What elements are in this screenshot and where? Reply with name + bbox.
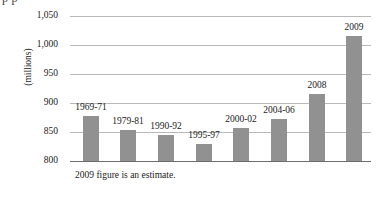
y-axis-tick-label: 1,050 xyxy=(14,11,58,21)
clipped-header-fragment: p p xyxy=(2,0,18,6)
bar[interactable] xyxy=(346,36,362,161)
y-axis-tick-label: 850 xyxy=(14,127,58,137)
plot-area: 1,0501,0009509008508001969-711979-811990… xyxy=(70,16,371,161)
y-axis-tick-label: 800 xyxy=(14,156,58,166)
gridline xyxy=(70,161,371,162)
y-axis-tick-label: 1,000 xyxy=(14,40,58,50)
gridline xyxy=(70,103,371,104)
bar-value-label: 2000-02 xyxy=(225,115,257,125)
bar-value-label: 2009 xyxy=(345,23,364,33)
bar[interactable] xyxy=(158,135,174,161)
gridline xyxy=(70,132,371,133)
bar-value-label: 1979-81 xyxy=(112,117,144,127)
bar-value-label: 1995-97 xyxy=(188,131,220,141)
bar-value-label: 1969-71 xyxy=(75,103,107,113)
bar-value-label: 2008 xyxy=(308,81,327,91)
bar[interactable] xyxy=(271,119,287,161)
y-axis-tick-label: 900 xyxy=(14,98,58,108)
y-axis-tick-label: 950 xyxy=(14,69,58,79)
gridline xyxy=(70,74,371,75)
gridline xyxy=(70,16,371,17)
chart-footnote: 2009 figure is an estimate. xyxy=(75,170,176,180)
bar[interactable] xyxy=(233,128,249,161)
bar[interactable] xyxy=(196,144,212,161)
bar[interactable] xyxy=(309,94,325,161)
bar[interactable] xyxy=(83,116,99,161)
bar-value-label: 1990-92 xyxy=(150,122,182,132)
bar-chart: p p (millions) 1,0501,000950900850800196… xyxy=(0,0,379,206)
gridline xyxy=(70,45,371,46)
bar[interactable] xyxy=(120,130,136,161)
bar-value-label: 2004-06 xyxy=(263,106,295,116)
